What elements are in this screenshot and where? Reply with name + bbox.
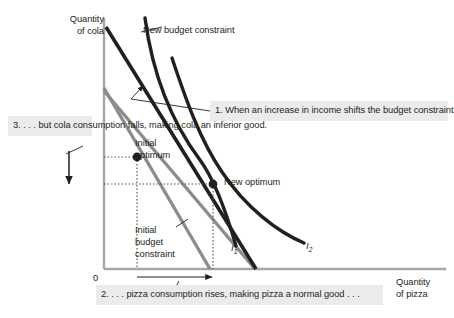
i1-subscript: 1	[234, 248, 238, 255]
origin-label: 0	[93, 272, 98, 284]
indifference-curve-i2-label: I2	[306, 240, 312, 256]
initial-budget-constraint-label: Initial budget constraint	[135, 224, 175, 261]
annotation-note-1: 1. When an increase in income shifts the…	[210, 101, 448, 121]
new-optimum-label: New optimum	[224, 176, 280, 188]
y-axis-title: Quantity of cola	[50, 14, 104, 37]
i2-subscript: 2	[309, 246, 313, 253]
x-axis-title: Quantity of pizza	[396, 277, 450, 300]
annotation-note-3: 3. . . . but cola consumption falls, mak…	[8, 116, 92, 136]
initial-optimum-label: Initial optimum	[135, 137, 170, 161]
new-budget-constraint-label: New budget constraint	[143, 24, 234, 36]
annotation-note-2: 2. . . . pizza consumption rises, making…	[96, 285, 383, 305]
note-1-arrow	[131, 86, 143, 99]
economics-diagram: Quantity of cola Quantity of pizza 0 New…	[0, 0, 454, 318]
new-optimum-point	[209, 180, 218, 189]
indifference-curve-i1-label: I1	[231, 242, 237, 258]
diagram-canvas	[0, 0, 454, 318]
